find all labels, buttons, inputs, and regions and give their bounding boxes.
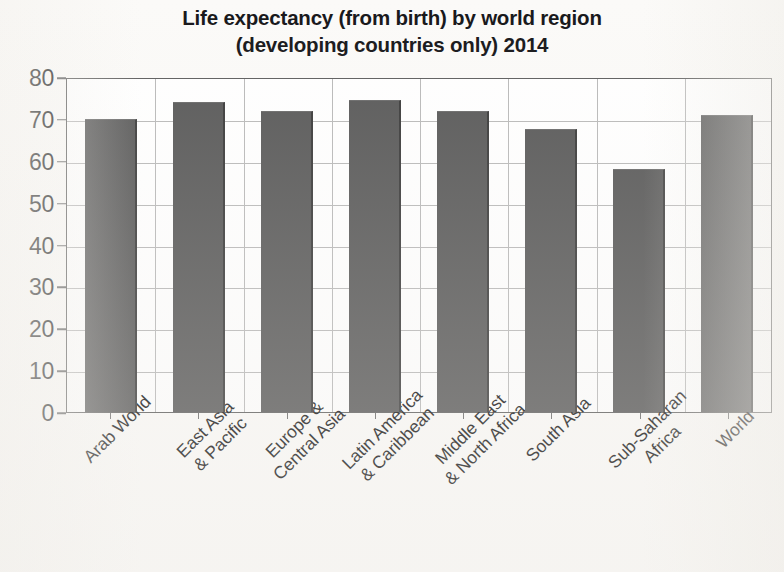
y-axis-tick-label: 60	[29, 150, 54, 173]
x-axis-tick-mark	[287, 413, 288, 419]
x-axis-category: Europe &Central Asia	[243, 413, 331, 563]
chart-title-line-1: Life expectancy (from birth) by world re…	[0, 4, 784, 31]
x-axis-category: Arab World	[66, 413, 154, 563]
bar	[613, 169, 665, 412]
bar	[349, 100, 401, 412]
x-axis-category: World	[684, 413, 772, 563]
y-axis-tick-mark	[57, 119, 66, 121]
y-axis-tick-label: 70	[29, 108, 54, 131]
bar-slot	[67, 79, 155, 412]
y-axis-tick-label: 10	[29, 360, 54, 383]
bar-slot	[507, 79, 595, 412]
y-axis-tick-mark	[57, 245, 66, 247]
x-axis-tick-mark	[463, 413, 464, 419]
x-axis-category: Latin America& Caribbean	[331, 413, 419, 563]
y-axis: 80706050403020100	[0, 78, 66, 413]
bar	[437, 111, 489, 413]
y-axis-tick-label: 20	[29, 318, 54, 341]
y-axis-tick-mark	[57, 203, 66, 205]
y-axis-tick-label: 40	[29, 234, 54, 257]
x-axis-tick-mark	[110, 413, 111, 419]
x-axis-category: South Asia	[507, 413, 595, 563]
bar	[525, 129, 577, 412]
x-axis-tick-label-line-1: World	[712, 406, 758, 452]
x-axis: Arab WorldEast Asia& PacificEurope &Cent…	[66, 413, 772, 563]
x-axis-category: East Asia& Pacific	[154, 413, 242, 563]
bar	[173, 102, 225, 412]
bar-slot	[683, 79, 771, 412]
y-axis-tick-mark	[57, 329, 66, 331]
bar-chart: Life expectancy (from birth) by world re…	[0, 0, 784, 572]
y-axis-tick-label: 50	[29, 192, 54, 215]
bar	[85, 119, 137, 412]
bar-series	[67, 79, 771, 412]
bar-slot	[595, 79, 683, 412]
bar	[261, 111, 313, 413]
x-axis-tick-mark	[728, 413, 729, 419]
y-axis-tick-label: 30	[29, 276, 54, 299]
y-axis-tick-mark	[57, 161, 66, 163]
bar-slot	[331, 79, 419, 412]
chart-title-line-2: (developing countries only) 2014	[0, 31, 784, 58]
plot-area	[66, 78, 772, 413]
x-axis-tick-mark	[198, 413, 199, 419]
x-axis-category: Sub-SaharanAfrica	[596, 413, 684, 563]
x-axis-tick-mark	[640, 413, 641, 419]
chart-title: Life expectancy (from birth) by world re…	[0, 4, 784, 59]
x-axis-tick-mark	[551, 413, 552, 419]
y-axis-tick-mark	[57, 370, 66, 372]
bar-slot	[155, 79, 243, 412]
x-axis-category: Middle East& North Africa	[419, 413, 507, 563]
y-axis-tick-mark	[57, 412, 66, 414]
bar	[701, 115, 753, 412]
y-axis-tick-label: 0	[42, 402, 55, 425]
y-axis-tick-mark	[57, 287, 66, 289]
bar-slot	[419, 79, 507, 412]
y-axis-tick-mark	[57, 77, 66, 79]
x-axis-tick-mark	[375, 413, 376, 419]
y-axis-tick-label: 80	[29, 67, 54, 90]
bar-slot	[243, 79, 331, 412]
x-axis-tick-label: World	[712, 406, 759, 453]
